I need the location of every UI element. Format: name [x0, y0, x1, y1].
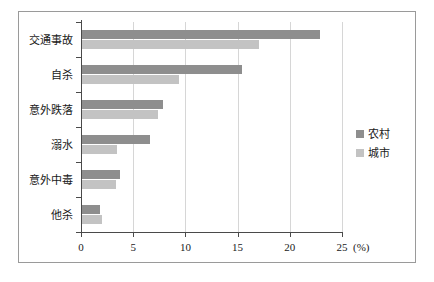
- legend-swatch-icon: [356, 130, 364, 138]
- gridline: [342, 22, 343, 232]
- category-label-交通事故: 交通事故: [0, 34, 73, 46]
- legend-label: 农村: [368, 128, 390, 140]
- legend-swatch-icon: [356, 149, 364, 157]
- legend-item-城市[interactable]: 城市: [356, 145, 412, 160]
- x-axis-tick: [342, 232, 343, 237]
- bar-城市-交通事故: [82, 40, 259, 49]
- x-axis-tick: [290, 232, 291, 237]
- legend-item-农村[interactable]: 农村: [356, 126, 412, 141]
- x-axis-tick: [238, 232, 239, 237]
- x-axis-tick-label: 15: [218, 241, 258, 253]
- bar-城市-意外中毒: [82, 180, 116, 189]
- bar-城市-溺水: [82, 145, 117, 154]
- x-axis-tick-label: 0: [61, 241, 101, 253]
- bar-城市-自杀: [82, 75, 179, 84]
- bar-城市-他杀: [82, 215, 102, 224]
- category-label-溺水: 溺水: [0, 139, 73, 151]
- x-axis-tick: [133, 232, 134, 237]
- bar-农村-交通事故: [82, 30, 320, 39]
- bar-农村-溺水: [82, 135, 150, 144]
- x-axis-tick-label: 5: [113, 241, 153, 253]
- category-label-意外跌落: 意外跌落: [0, 104, 73, 116]
- bar-农村-意外跌落: [82, 100, 163, 109]
- x-axis-unit-label: (%): [353, 241, 370, 253]
- chart-legend: 农村城市: [356, 126, 412, 164]
- x-axis-tick: [81, 232, 82, 237]
- bar-农村-意外中毒: [82, 170, 120, 179]
- legend-label: 城市: [368, 147, 390, 159]
- category-label-意外中毒: 意外中毒: [0, 174, 73, 186]
- chart-figure: 交通事故自杀意外跌落溺水意外中毒他杀 0510152025 (%) 农村城市: [0, 0, 434, 282]
- x-axis-line: [81, 232, 343, 233]
- category-label-自杀: 自杀: [0, 69, 73, 81]
- bar-农村-自杀: [82, 65, 242, 74]
- bar-城市-意外跌落: [82, 110, 158, 119]
- x-axis-tick-label: 10: [165, 241, 205, 253]
- plot-area: [82, 22, 342, 232]
- x-axis-tick-label: 20: [270, 241, 310, 253]
- x-axis-tick: [185, 232, 186, 237]
- bar-农村-他杀: [82, 205, 100, 214]
- category-label-他杀: 他杀: [0, 209, 73, 221]
